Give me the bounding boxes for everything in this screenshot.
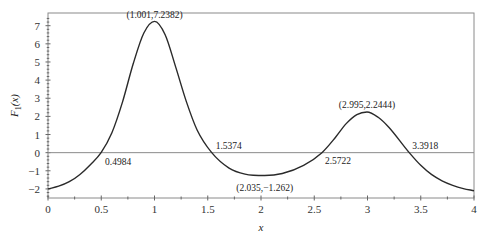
point-annotation: (2.035,−1.262) <box>236 183 293 194</box>
point-annotation: (2.995,2.2444) <box>339 100 395 111</box>
x-axis-title: x <box>258 221 264 233</box>
y-tick-label: 6 <box>35 38 41 50</box>
y-tick-label: 2 <box>35 110 41 122</box>
y-tick-label: 7 <box>35 20 41 32</box>
x-tick-label: 2 <box>258 203 264 215</box>
y-tick-label: −2 <box>28 183 40 195</box>
annotations: (1.001,7.2382)0.49841.5374(2.035,−1.262)… <box>105 10 439 193</box>
point-annotation: 2.5722 <box>325 156 351 166</box>
y-tick-label: −1 <box>28 165 40 177</box>
y-axis-title: F1(x) <box>8 94 23 118</box>
y-tick-labels: −2−101234567 <box>28 20 40 195</box>
axis-ticks <box>46 18 475 200</box>
x-tick-label: 0 <box>45 203 51 215</box>
point-annotation: 0.4984 <box>105 157 131 167</box>
x-tick-label: 1 <box>152 203 158 215</box>
plot-border <box>48 13 474 198</box>
y-tick-label: 0 <box>35 147 41 159</box>
chart-figure: 00.511.522.533.54 −2−101234567 (1.001,7.… <box>0 0 490 238</box>
plot-frame <box>48 13 474 198</box>
x-tick-label: 2.5 <box>307 203 321 215</box>
x-tick-label: 3.5 <box>414 203 428 215</box>
y-tick-label: 3 <box>35 92 41 104</box>
x-tick-label: 0.5 <box>94 203 108 215</box>
y-tick-label: 4 <box>35 74 41 86</box>
x-tick-label: 1.5 <box>201 203 215 215</box>
point-annotation: (1.001,7.2382) <box>127 10 183 21</box>
y-tick-label: 1 <box>35 129 41 141</box>
point-annotation: 3.3918 <box>412 141 438 151</box>
point-annotation: 1.5374 <box>216 141 242 151</box>
y-title-arg: (x) <box>8 94 21 107</box>
x-tick-labels: 00.511.522.533.54 <box>45 203 477 215</box>
x-tick-label: 3 <box>365 203 371 215</box>
x-tick-label: 4 <box>471 203 477 215</box>
y-tick-label: 5 <box>35 56 41 68</box>
